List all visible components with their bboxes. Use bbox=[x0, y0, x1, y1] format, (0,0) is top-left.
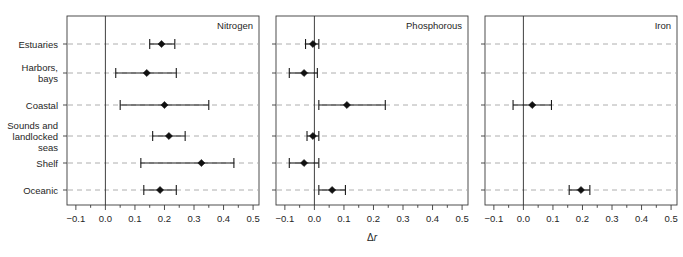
x-axis-tick-label: 0.2 bbox=[367, 213, 380, 224]
category-label-shelf: Shelf bbox=[36, 158, 58, 169]
x-axis-tick-label: −0.1 bbox=[484, 213, 503, 224]
point-marker bbox=[300, 69, 307, 76]
category-label-line: Sounds and bbox=[7, 120, 58, 131]
x-axis-tick-label: −0.1 bbox=[275, 213, 294, 224]
x-axis-tick-label: 0.4 bbox=[635, 213, 648, 224]
datapoint-nitrogen-sounds-and-landlocked-seas bbox=[153, 131, 185, 141]
x-axis-tick-label: −0.1 bbox=[66, 213, 85, 224]
point-marker bbox=[329, 186, 336, 193]
point-marker bbox=[309, 132, 316, 139]
category-label-coastal: Coastal bbox=[26, 100, 58, 111]
panel-phosphorous: −0.10.00.10.20.30.40.5Phosphorous bbox=[272, 16, 469, 224]
category-label-line: bays bbox=[38, 73, 58, 84]
point-marker bbox=[143, 69, 150, 76]
category-label-line: seas bbox=[38, 142, 58, 153]
point-marker bbox=[300, 159, 307, 166]
x-axis-tick-label: 0.2 bbox=[576, 213, 589, 224]
x-axis-tick-label: 0.3 bbox=[605, 213, 618, 224]
x-axis-tick-label: 0.1 bbox=[337, 213, 350, 224]
category-label-line: Coastal bbox=[26, 100, 58, 111]
x-axis-tick-label: 0.0 bbox=[99, 213, 112, 224]
x-axis-tick-label: 0.5 bbox=[664, 213, 677, 224]
point-marker bbox=[577, 186, 584, 193]
category-label-sounds-and-landlocked-seas: Sounds andlandlockedseas bbox=[7, 120, 58, 153]
x-axis-tick-label: 0.3 bbox=[187, 213, 200, 224]
panel-iron: −0.10.00.10.20.30.40.5Iron bbox=[481, 16, 678, 224]
category-label-line: landlocked bbox=[13, 131, 58, 142]
x-axis-tick-label: 0.5 bbox=[246, 213, 259, 224]
x-axis-title: Δr bbox=[367, 232, 378, 243]
category-label-line: Estuaries bbox=[18, 39, 58, 50]
panel-title-nitrogen: Nitrogen bbox=[217, 20, 253, 31]
x-axis-tick-label: 0.4 bbox=[426, 213, 439, 224]
x-axis-tick-label: 0.1 bbox=[546, 213, 559, 224]
category-label-line: Harbors, bbox=[22, 62, 58, 73]
point-marker bbox=[309, 40, 316, 47]
point-marker bbox=[198, 159, 205, 166]
category-label-oceanic: Oceanic bbox=[23, 185, 58, 196]
category-label-harbors-bays: Harbors,bays bbox=[22, 62, 59, 84]
plot-canvas: EstuariesHarbors,baysCoastalSounds andla… bbox=[0, 0, 683, 257]
forest-plot-figure: EstuariesHarbors,baysCoastalSounds andla… bbox=[0, 0, 683, 257]
x-axis-tick-label: 0.5 bbox=[455, 213, 468, 224]
point-marker bbox=[529, 101, 536, 108]
panel-title-iron: Iron bbox=[655, 20, 671, 31]
datapoint-phosphorous-harbors-bays bbox=[289, 68, 317, 78]
point-marker bbox=[156, 186, 163, 193]
x-axis-tick-label: 0.4 bbox=[217, 213, 230, 224]
datapoint-nitrogen-shelf bbox=[141, 158, 234, 168]
datapoint-nitrogen-harbors-bays bbox=[116, 68, 177, 78]
x-axis-tick-label: 0.0 bbox=[308, 213, 321, 224]
category-label-line: Shelf bbox=[36, 158, 58, 169]
datapoint-iron-oceanic bbox=[569, 185, 590, 195]
x-axis-tick-label: 0.1 bbox=[128, 213, 141, 224]
x-axis-tick-label: 0.2 bbox=[158, 213, 171, 224]
datapoint-nitrogen-oceanic bbox=[144, 185, 176, 195]
category-label-estuaries: Estuaries bbox=[18, 39, 58, 50]
datapoint-nitrogen-estuaries bbox=[150, 39, 175, 49]
point-marker bbox=[158, 40, 165, 47]
x-axis-tick-label: 0.3 bbox=[396, 213, 409, 224]
datapoint-phosphorous-oceanic bbox=[319, 185, 346, 195]
point-marker bbox=[161, 101, 168, 108]
datapoint-nitrogen-coastal bbox=[120, 100, 209, 110]
datapoint-iron-coastal bbox=[513, 100, 551, 110]
datapoint-phosphorous-coastal bbox=[319, 100, 385, 110]
x-axis-tick-label: 0.0 bbox=[517, 213, 530, 224]
category-label-line: Oceanic bbox=[23, 185, 58, 196]
point-marker bbox=[165, 132, 172, 139]
panel-nitrogen: −0.10.00.10.20.30.40.5Nitrogen bbox=[63, 16, 260, 224]
panel-title-phosphorous: Phosphorous bbox=[406, 20, 462, 31]
datapoint-phosphorous-estuaries bbox=[306, 39, 319, 49]
datapoint-phosphorous-sounds-and-landlocked-seas bbox=[307, 131, 319, 141]
point-marker bbox=[343, 101, 350, 108]
